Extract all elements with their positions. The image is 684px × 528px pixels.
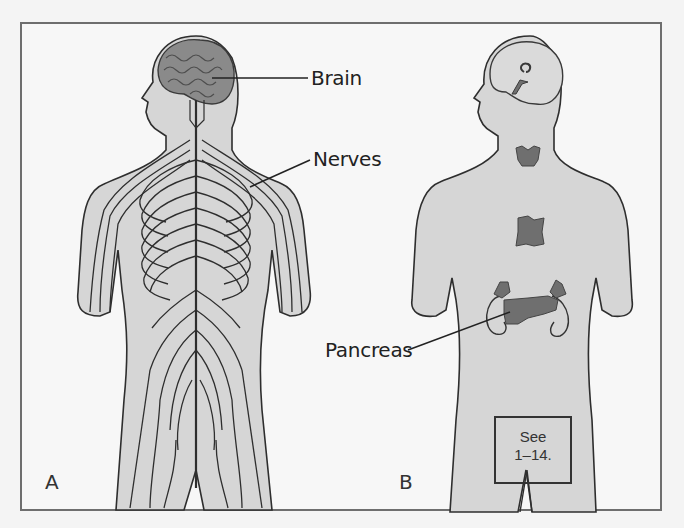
- nerves-label: Nerves: [313, 147, 381, 171]
- reference-line-1: See: [496, 428, 570, 446]
- reference-box: See 1–14.: [494, 416, 572, 484]
- reference-line-2: 1–14.: [496, 446, 570, 464]
- pancreas-label: Pancreas: [325, 338, 412, 362]
- panel-label-b: B: [399, 470, 413, 494]
- brain-label: Brain: [311, 66, 362, 90]
- thymus: [516, 216, 544, 246]
- panel-label-a: A: [45, 470, 59, 494]
